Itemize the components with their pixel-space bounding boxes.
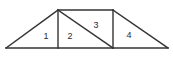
inner-diagonal-edge (58, 10, 113, 48)
right-slope-edge (113, 10, 168, 48)
region-label-1: 1 (43, 31, 48, 41)
region-label-2: 2 (67, 31, 72, 41)
truss-diagram: 1 2 3 4 (0, 0, 173, 58)
figure-canvas: 1 2 3 4 (0, 0, 173, 58)
region-label-4: 4 (126, 30, 131, 40)
region-label-3: 3 (93, 20, 98, 30)
left-slope-edge (6, 10, 58, 48)
